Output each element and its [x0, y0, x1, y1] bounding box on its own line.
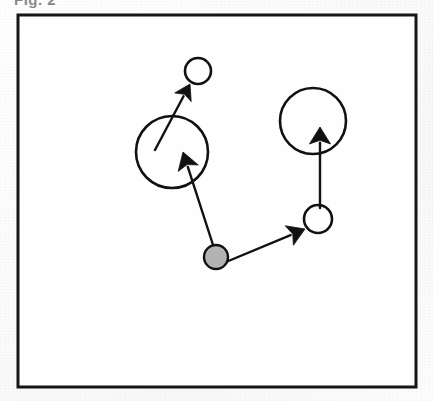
- gray-source-node: [204, 245, 228, 269]
- figure-frame-border: [18, 15, 416, 387]
- diagram-canvas: [0, 0, 433, 401]
- figure-page: Fig. 2: [0, 0, 433, 401]
